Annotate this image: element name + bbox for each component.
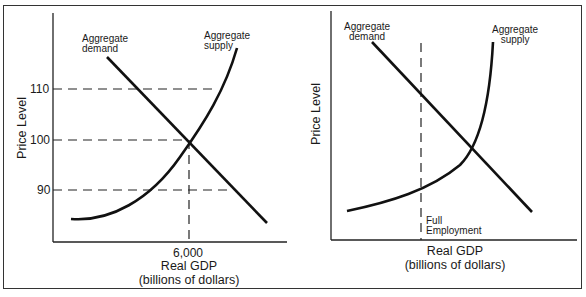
- right-ad-label: Aggregate demand: [344, 22, 390, 42]
- left-tick-90: 90: [37, 183, 50, 197]
- right-x-title-line1: Real GDP: [395, 244, 515, 258]
- right-full-employment-label: Full Employment: [426, 216, 482, 236]
- left-ad-label: Aggregate demand: [82, 34, 128, 54]
- left-y-axis-label: Price Level: [15, 88, 29, 168]
- left-x-title-line1: Real GDP: [129, 259, 249, 273]
- right-as-label-line2: supply: [492, 35, 538, 45]
- left-tick-6000: 6,000: [173, 246, 203, 260]
- right-x-title-line2: (billions of dollars): [395, 258, 515, 272]
- left-aggregate-supply-curve: [71, 48, 237, 219]
- left-as-label-line2: supply: [204, 41, 250, 51]
- right-fe-label-line2: Employment: [426, 226, 482, 236]
- right-aggregate-supply-curve: [347, 42, 493, 211]
- left-as-label: Aggregate supply: [204, 31, 250, 51]
- left-x-axis-label: Real GDP (billions of dollars): [129, 259, 249, 287]
- right-aggregate-demand-curve: [372, 42, 532, 212]
- left-x-title-line2: (billions of dollars): [129, 273, 249, 287]
- right-ad-label-line2: demand: [344, 32, 390, 42]
- right-x-axis-label: Real GDP (billions of dollars): [395, 244, 515, 272]
- left-tick-110: 110: [30, 82, 49, 96]
- right-as-label: Aggregate supply: [492, 25, 538, 45]
- left-tick-100: 100: [30, 133, 50, 147]
- right-chart: [331, 11, 577, 240]
- right-y-axis-label: Price Level: [309, 74, 323, 154]
- left-ad-label-line2: demand: [82, 44, 128, 54]
